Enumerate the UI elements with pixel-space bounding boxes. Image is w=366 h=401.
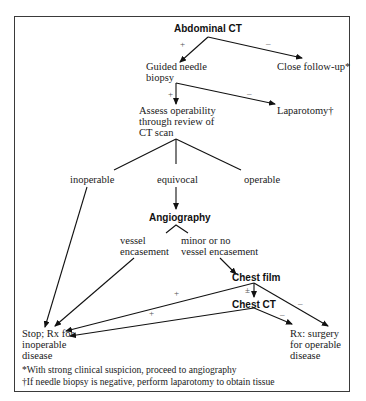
- node-assess-line2: through review of: [139, 116, 214, 127]
- arrow-ct-to-followup: [208, 37, 302, 58]
- node-assess-line1: Assess operability: [139, 105, 216, 116]
- node-vessel-encasement-line1: vessel: [120, 235, 146, 246]
- node-assess-line3: CT scan: [139, 127, 174, 138]
- edge-label-biopsy-negative: –: [247, 89, 252, 98]
- arrow-chestct-to-surgery: [254, 308, 292, 324]
- node-guided-biopsy-line1: Guided needle: [146, 61, 207, 72]
- node-surgery-line3: disease: [290, 350, 320, 361]
- node-stop-line3: disease: [22, 350, 52, 361]
- node-chest-ct: Chest CT: [232, 299, 276, 310]
- node-equivocal: equivocal: [157, 174, 198, 185]
- arrow-inoperable-to-stop: [45, 187, 87, 327]
- edge-label-biopsy-positive: +: [168, 90, 173, 99]
- edge-label-ct-positive: +: [180, 40, 185, 49]
- node-minor-encasement-line2: vessel encasement: [181, 246, 258, 257]
- node-minor-encasement-line1: minor or no: [181, 235, 231, 246]
- node-angiography: Angiography: [149, 212, 211, 223]
- arrow-chestct-to-stop: [70, 308, 254, 336]
- node-vessel-encasement-line2: encasement: [120, 246, 169, 257]
- node-stop-line2: inoperable: [22, 339, 66, 350]
- arrow-encasement-to-stop: [55, 258, 134, 326]
- node-surgery-line2: for operable: [290, 339, 341, 350]
- edge-label-film-equivocal: ±: [245, 286, 250, 295]
- edge-label-film-negative: –: [298, 299, 303, 308]
- line-assess-inoperable: [114, 139, 176, 170]
- footnote-dagger: †If needle biopsy is negative, perform l…: [22, 376, 275, 388]
- edge-label-chestct-positive: +: [149, 309, 154, 318]
- line-assess-operable: [176, 139, 241, 170]
- arrow-biopsy-to-laparotomy: [176, 83, 275, 104]
- edge-label-film-positive: +: [174, 289, 179, 298]
- footnote-asterisk: *With strong clinical suspicion, proceed…: [22, 364, 237, 376]
- node-inoperable: inoperable: [70, 174, 114, 185]
- edge-label-ct-negative: –: [266, 39, 271, 48]
- node-surgery-line1: Rx: surgery: [290, 328, 339, 339]
- node-stop-line1: Stop; Rx for: [22, 328, 74, 339]
- node-laparotomy: Laparotomy†: [277, 105, 334, 116]
- node-guided-biopsy-line2: biopsy: [146, 72, 174, 83]
- node-operable: operable: [244, 174, 280, 185]
- edge-label-chestct-negative: –: [280, 310, 285, 319]
- node-abdominal-ct: Abdominal CT: [174, 23, 242, 34]
- line-angiography-split: [166, 225, 188, 233]
- node-chest-film: Chest film: [232, 272, 280, 283]
- arrow-chestfilm-to-stop: [66, 283, 254, 331]
- node-close-followup: Close follow-up*: [277, 61, 350, 72]
